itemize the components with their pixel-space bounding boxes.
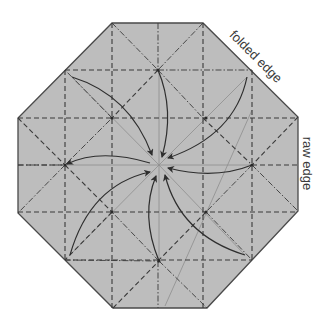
raw-edge-label: raw edge [300,137,315,190]
reference-dot [204,116,207,119]
reference-dot [110,210,113,213]
reference-dot [156,68,159,71]
crease-pattern-diagram [0,0,335,327]
reference-dot [204,210,207,213]
reference-dot [110,116,113,119]
reference-dot [63,163,66,166]
reference-dot [250,163,253,166]
reference-dot [157,259,160,262]
